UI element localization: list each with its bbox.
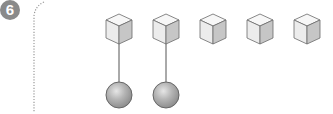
cube-4 [247,14,273,44]
cube-5 [294,14,320,44]
cube-ball-diagram [0,0,333,114]
cube-3 [200,14,226,44]
cube-1 [106,14,132,44]
ball-2 [153,82,179,108]
ball-1 [106,82,132,108]
cube-2 [153,14,179,44]
dotted-bracket-line [34,2,44,112]
